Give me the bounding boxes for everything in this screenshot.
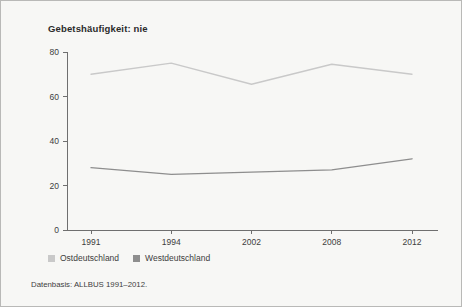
- series-line-ostdeutschland: [91, 63, 412, 84]
- x-tick-label: 1991: [82, 237, 101, 247]
- data-source-note: Datenbasis: ALLBUS 1991–2012.: [31, 280, 147, 289]
- y-tick-label: 0: [54, 225, 59, 235]
- legend-item-ostdeutschland: Ostdeutschland: [48, 253, 119, 263]
- legend-swatch-westdeutschland: [133, 255, 140, 262]
- x-tick-label: 2012: [403, 237, 422, 247]
- y-tick-label: 20: [50, 181, 60, 191]
- legend-swatch-ostdeutschland: [48, 255, 55, 262]
- y-tick-label: 60: [50, 92, 60, 102]
- x-tick-label: 1994: [162, 237, 181, 247]
- chart-series: [91, 63, 412, 174]
- chart-axes: 02040608019911994200220082012: [50, 47, 438, 247]
- y-tick-label: 40: [50, 136, 60, 146]
- chart-figure: Gebetshäufigkeit: nie 020406080199119942…: [0, 0, 462, 307]
- legend-label-westdeutschland: Westdeutschland: [145, 253, 210, 263]
- x-tick-label: 2002: [242, 237, 261, 247]
- y-tick-label: 80: [50, 47, 60, 57]
- x-tick-label: 2008: [322, 237, 341, 247]
- legend-item-westdeutschland: Westdeutschland: [133, 253, 210, 263]
- series-line-westdeutschland: [91, 159, 412, 175]
- legend-label-ostdeutschland: Ostdeutschland: [60, 253, 119, 263]
- chart-legend: Ostdeutschland Westdeutschland: [48, 253, 210, 263]
